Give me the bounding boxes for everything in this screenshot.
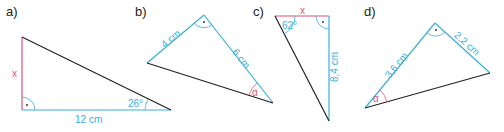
right-angle-dot [435, 29, 437, 31]
angle-label: α [373, 93, 379, 104]
right-angle-dot [322, 21, 324, 23]
hypotenuse [365, 73, 490, 108]
angle-label: α [252, 87, 258, 98]
side-label-4cm: 4 cm [159, 27, 183, 49]
right-angle-arc [194, 23, 212, 28]
triangle-exercises: a) x 12 cm 26° b) 4 cm 6 cm α c) x 8,4 c… [0, 0, 504, 132]
angle-label: 26° [128, 98, 143, 109]
figure-d: d) 3,6 cm 2,2 cm α [364, 4, 490, 108]
side-label-x: x [300, 5, 305, 16]
angle-label: 62° [282, 20, 297, 31]
side-label-8-4cm: 8,4 cm [329, 52, 340, 82]
right-angle-dot [26, 104, 28, 106]
figure-label: d) [364, 4, 376, 19]
angle-arc [145, 99, 148, 110]
hypotenuse [22, 37, 171, 110]
angle-arc [380, 90, 387, 102]
figure-a: a) x 12 cm 26° [6, 4, 171, 125]
figure-c: c) x 8,4 cm 62° [253, 4, 340, 121]
side-label-6cm: 6 cm [230, 47, 252, 71]
right-angle-dot [203, 21, 205, 23]
right-angle-arc [427, 32, 445, 36]
hypotenuse [275, 16, 329, 121]
side-label-base: 12 cm [75, 114, 102, 125]
side-label-x: x [12, 68, 17, 79]
figure-label: c) [253, 4, 264, 19]
right-angle-arc [22, 97, 35, 110]
figure-label: a) [6, 4, 18, 19]
side-label-3-6cm: 3,6 cm [383, 50, 411, 80]
figure-label: b) [135, 4, 147, 19]
